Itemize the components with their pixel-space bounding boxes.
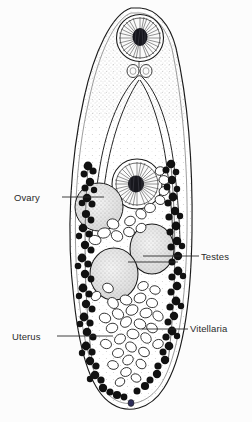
oral-sucker <box>117 15 164 62</box>
excretory-pore <box>128 400 134 407</box>
trematode-anatomy-figure <box>0 0 252 422</box>
label-vitellaria: Vitellaria <box>190 323 227 334</box>
label-testes: Testes <box>201 251 229 262</box>
label-uterus: Uterus <box>12 331 41 342</box>
label-ovary: Ovary <box>14 192 40 203</box>
